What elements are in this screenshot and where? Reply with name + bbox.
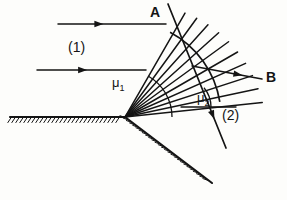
fan-ray xyxy=(125,13,185,117)
label-point-a: A xyxy=(150,5,160,19)
diagram-canvas xyxy=(0,0,287,200)
label-angle-mu-two-sub: 2 xyxy=(205,98,210,108)
arrow-down-right-icon xyxy=(233,71,242,77)
arrow-right-icon xyxy=(78,67,87,73)
label-angle-mu-one: μ1 xyxy=(112,76,125,93)
arrow-down-right-icon xyxy=(208,110,214,120)
surface-hatching xyxy=(8,116,209,181)
label-angle-mu-two: μ2 xyxy=(197,91,210,108)
label-point-b: B xyxy=(266,70,276,84)
label-angle-mu-one-sub: 1 xyxy=(120,83,125,93)
label-medium-one: (1) xyxy=(68,40,85,54)
fan-ray xyxy=(125,18,197,117)
label-medium-two: (2) xyxy=(222,108,239,122)
arrow-right-icon xyxy=(94,21,103,27)
label-angle-mu-two-base: μ xyxy=(197,90,205,105)
interface-surface xyxy=(10,117,212,183)
incident-rays-group xyxy=(37,21,166,73)
huygens-fan-rays xyxy=(125,13,262,117)
label-angle-mu-one-base: μ xyxy=(112,75,120,90)
refraction-diagram: A B (1) (2) μ1 μ2 xyxy=(0,0,287,200)
